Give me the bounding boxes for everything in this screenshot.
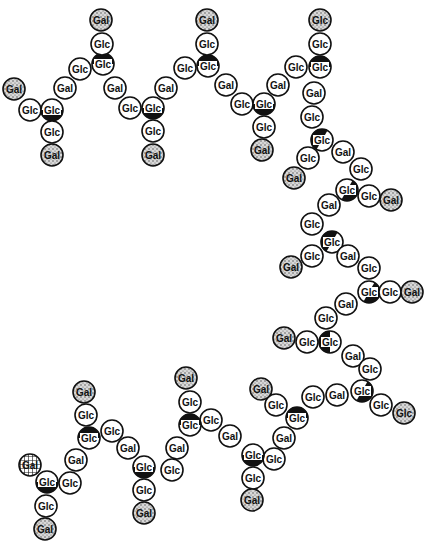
- residue-label: Glc: [122, 103, 139, 114]
- stipple-terminal-residue-gal: Gal: [41, 144, 63, 166]
- residue-label: Glc: [373, 400, 390, 411]
- residue-gal: Gal: [273, 427, 295, 449]
- residue-label: Glc: [78, 410, 95, 421]
- residue-label: Glc: [22, 105, 39, 116]
- residue-label: Gal: [340, 251, 356, 262]
- residue-label: Glc: [382, 287, 399, 298]
- residue-gal: Gal: [303, 82, 325, 104]
- residue-glc: Glc: [242, 467, 264, 489]
- residue-label: Gal: [222, 431, 238, 442]
- residue-label: Glc: [300, 153, 317, 164]
- residue-glc: Glc: [196, 33, 218, 55]
- branch-residue-glc: Glc: [36, 471, 58, 493]
- residue-gal: Gal: [332, 141, 354, 163]
- residue-glc: Glc: [69, 58, 91, 80]
- residue-label: Glc: [81, 433, 98, 444]
- branch-residue-glc: Glc: [92, 53, 114, 75]
- stipple-terminal-residue-gal: Gal: [3, 78, 25, 100]
- residue-label: Glc: [312, 15, 329, 26]
- residue-gal: Gal: [318, 194, 340, 216]
- residue-gal: Gal: [337, 245, 359, 267]
- residue-label: Glc: [339, 185, 356, 196]
- residue-label: Glc: [361, 287, 378, 298]
- residue-label: Gal: [253, 384, 269, 395]
- branch-residue-glc: Glc: [179, 414, 201, 436]
- stipple-terminal-residue-gal: Gal: [175, 367, 197, 389]
- branch-residue-glc: Glc: [319, 331, 341, 353]
- residue-label: Glc: [200, 61, 217, 72]
- residue-glc: Glc: [296, 331, 318, 353]
- residue-glc: Glc: [133, 479, 155, 501]
- stipple-terminal-residue-glc: Glc: [309, 9, 331, 31]
- residue-glc: Glc: [301, 213, 323, 235]
- residue-label: Gal: [244, 495, 260, 506]
- branch-residue-glc: Glc: [78, 427, 100, 449]
- residue-label: Glc: [396, 408, 413, 419]
- residue-label: Glc: [288, 62, 305, 73]
- residue-glc: Glc: [119, 97, 141, 119]
- residue-label: Glc: [44, 127, 61, 138]
- residue-label: Gal: [199, 15, 215, 26]
- residue-label: Glc: [304, 251, 321, 262]
- residue-label: Gal: [107, 83, 123, 94]
- branch-residue-glc: Glc: [309, 56, 331, 78]
- residue-label: Gal: [145, 150, 161, 161]
- residue-glc: Glc: [200, 409, 222, 431]
- residue-label: Gal: [276, 333, 292, 344]
- residue-label: Glc: [199, 39, 216, 50]
- stipple-terminal-residue-gal: Gal: [273, 327, 295, 349]
- branch-residue-glc: Glc: [41, 99, 63, 121]
- residue-label: Gal: [404, 287, 420, 298]
- residue-glc: Glc: [285, 56, 307, 78]
- polysaccharide-diagram: GalGlcGlcGlcGalGalGlcGlcGlcGalGalGlcGlcG…: [0, 0, 426, 545]
- residue-label: Gal: [68, 455, 84, 466]
- residue-label: Gal: [345, 351, 361, 362]
- residue-label: Gal: [158, 83, 174, 94]
- residue-glc: Glc: [161, 459, 183, 481]
- residue-label: Gal: [276, 433, 292, 444]
- branch-residue-glc: Glc: [142, 97, 164, 119]
- residue-gal: Gal: [166, 437, 188, 459]
- residue-label: Gal: [120, 443, 136, 454]
- residue-label: Glc: [136, 485, 153, 496]
- stipple-terminal-residue-gal: Gal: [90, 9, 112, 31]
- residue-label: Gal: [335, 147, 351, 158]
- residue-glc: Glc: [301, 245, 323, 267]
- residue-label: Glc: [305, 392, 322, 403]
- residue-label: Glc: [245, 450, 262, 461]
- residue-label: Glc: [353, 164, 370, 175]
- residue-glc: Glc: [91, 33, 113, 55]
- stipple-terminal-residue-gal: Gal: [251, 139, 273, 161]
- residue-label: Glc: [318, 313, 335, 324]
- residue-label: Glc: [322, 337, 339, 348]
- branch-residue-glc: Glc: [197, 55, 219, 77]
- residue-label: Glc: [354, 386, 371, 397]
- residue-label: Glc: [312, 39, 329, 50]
- residue-label: Glc: [361, 191, 378, 202]
- residue-label: Gal: [178, 373, 194, 384]
- residue-label: Glc: [136, 462, 153, 473]
- residue-label: Glc: [299, 337, 316, 348]
- residue-gal: Gal: [326, 384, 348, 406]
- residue-label: Gal: [57, 83, 73, 94]
- residue-label: Gal: [6, 84, 22, 95]
- residue-label: Glc: [362, 364, 379, 375]
- residue-label: Gal: [169, 443, 185, 454]
- stipple-terminal-residue-glc: Glc: [393, 402, 415, 424]
- residue-label: Gal: [383, 195, 399, 206]
- residue-glc: Glc: [253, 116, 275, 138]
- residue-label: Glc: [289, 413, 306, 424]
- residue-gal: Gal: [215, 74, 237, 96]
- residue-label: Glc: [361, 263, 378, 274]
- residue-glc: Glc: [302, 386, 324, 408]
- residue-gal: Gal: [155, 77, 177, 99]
- residue-glc: Glc: [101, 420, 123, 442]
- residue-label: Glc: [266, 454, 283, 465]
- residue-glc: Glc: [19, 99, 41, 121]
- stipple-terminal-residue-gal: Gal: [283, 167, 305, 189]
- residue-label: Glc: [62, 478, 79, 489]
- residue-label: Gal: [37, 524, 53, 535]
- residue-label: Glc: [324, 237, 341, 248]
- residue-label: Gal: [270, 80, 286, 91]
- residue-glc: Glc: [315, 307, 337, 329]
